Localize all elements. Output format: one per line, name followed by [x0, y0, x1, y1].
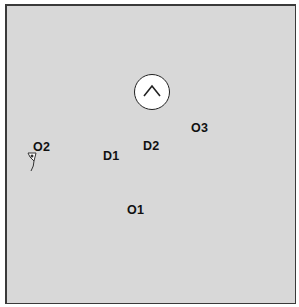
map-pin-icon — [26, 152, 40, 178]
label-o1: O1 — [127, 204, 144, 217]
label-d2: D2 — [143, 140, 159, 153]
label-d1: D1 — [103, 150, 119, 163]
label-o3: O3 — [191, 122, 208, 135]
north-arrow-icon — [134, 74, 170, 110]
label-o2: O2 — [33, 141, 50, 154]
map-panel — [5, 4, 296, 304]
